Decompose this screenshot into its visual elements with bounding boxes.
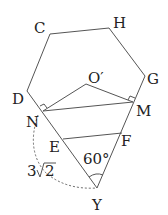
geometry-diagram: C H G D N M O′ E F Y 60° 3 2 (0, 0, 168, 215)
label-y: Y (91, 196, 103, 214)
edge-d-c (27, 34, 50, 91)
right-angle-mark-n (40, 104, 47, 108)
label-e: E (49, 138, 60, 156)
edge-h-g (109, 28, 145, 76)
label-o-prime: O′ (88, 69, 104, 87)
right-angle-mark-m (128, 96, 135, 100)
label-sqrt-radicand: 2 (45, 162, 55, 180)
label-d: D (12, 90, 24, 108)
label-f: F (121, 132, 131, 150)
label-sqrt-coeff: 3 (27, 162, 37, 180)
label-g: G (147, 70, 159, 88)
edge-d-y (27, 91, 97, 188)
angle-arc-y (89, 174, 103, 177)
segment-n-m (43, 102, 133, 111)
label-n: N (26, 113, 39, 131)
label-m: M (136, 102, 151, 120)
edge-c-h (50, 28, 109, 34)
label-c: C (34, 19, 45, 37)
label-arc-length: 3 2 (27, 162, 56, 180)
segment-e-f (63, 133, 122, 139)
label-h: H (113, 14, 126, 32)
label-angle-60: 60° (83, 150, 110, 168)
